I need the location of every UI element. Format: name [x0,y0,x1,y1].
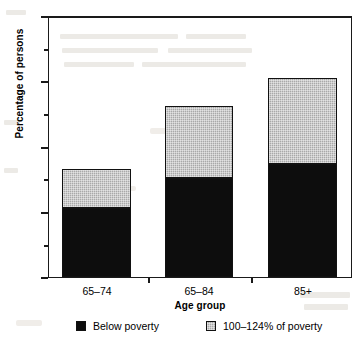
bar-group-65-84 [165,106,233,277]
legend-label-100-124-poverty: 100–124% of poverty [223,320,322,332]
x-tick-2 [251,278,253,283]
x-axis-label-85-plus: 85+ [258,285,348,297]
bar-group-85-plus [268,78,337,277]
y-tick-0 [41,277,48,279]
bar-group-65-74 [62,169,131,277]
bar-segment-100-124-poverty-85-plus [268,78,337,164]
bar-segment-below-poverty-65-74 [62,208,131,277]
x-axis-label-65-74: 65–74 [52,285,142,297]
bar-segment-below-poverty-85-plus [268,164,337,277]
black-square-icon [76,321,86,331]
x-tick-1 [148,278,150,283]
poverty-by-age-stacked-bar-chart: Percentage of persons 0 10 20 30 40 [0,0,364,340]
plot-area [48,16,352,278]
legend-label-below-poverty: Below poverty [93,320,159,332]
y-tick-10 [41,212,48,214]
x-axis-label-65-84: 65–84 [154,285,244,297]
bar-segment-100-124-poverty-65-84 [165,106,233,178]
y-tick-40 [41,16,48,18]
gray-square-icon [206,321,216,331]
y-axis-title: Percentage of persons [14,9,25,159]
legend-item-below-poverty: Below poverty [76,320,159,332]
bar-segment-100-124-poverty-65-74 [62,169,131,208]
x-axis-title: Age group [48,300,352,311]
chart-legend: Below poverty 100–124% of poverty [48,320,352,336]
y-tick-20 [41,147,48,149]
legend-item-100-124-poverty: 100–124% of poverty [206,320,322,332]
bar-segment-below-poverty-65-84 [165,178,233,277]
y-tick-30 [41,81,48,83]
